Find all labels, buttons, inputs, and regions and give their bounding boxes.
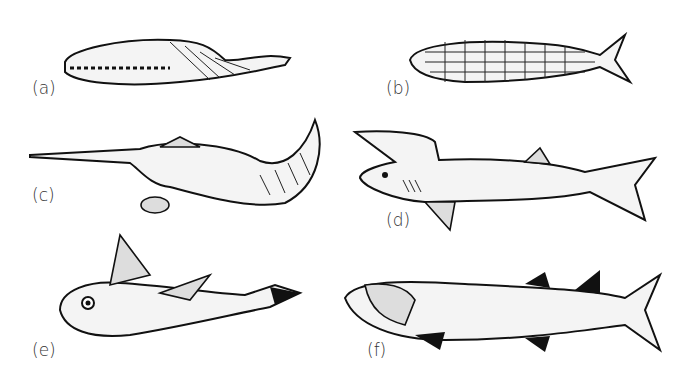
panel-label-a: (a) — [32, 78, 56, 98]
fish-e-illustration — [60, 235, 300, 365]
panel-label-f: (f) — [367, 340, 386, 360]
fish-a-illustration — [60, 30, 300, 100]
fish-f-illustration — [345, 270, 665, 360]
panel-label-e: (e) — [32, 340, 56, 360]
panel-label-c: (c) — [32, 185, 55, 205]
panel-label-d: (d) — [386, 210, 410, 230]
fish-c-illustration — [30, 115, 330, 215]
panel-label-b: (b) — [386, 78, 410, 98]
fish-b-illustration — [405, 30, 635, 90]
